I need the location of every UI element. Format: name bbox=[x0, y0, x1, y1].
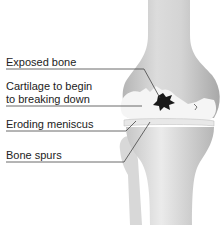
label-bone-spurs: Bone spurs bbox=[6, 149, 62, 161]
label-eroding-meniscus: Eroding meniscus bbox=[6, 118, 93, 130]
label-cartilage-line1: Cartilage to begin bbox=[6, 80, 92, 92]
label-exposed-bone: Exposed bone bbox=[6, 56, 76, 68]
meniscus bbox=[124, 119, 214, 126]
knee-illustration bbox=[0, 0, 224, 225]
label-cartilage-line2: to breaking down bbox=[6, 93, 90, 105]
